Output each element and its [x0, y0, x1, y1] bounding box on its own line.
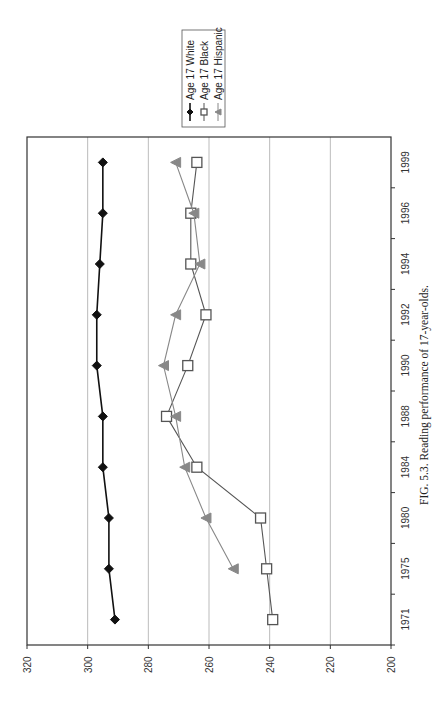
square-marker: [192, 157, 202, 167]
triangle-marker: [201, 513, 211, 523]
gridlines: [88, 137, 331, 645]
value-tick-label: 280: [143, 656, 154, 673]
triangle-marker: [171, 310, 181, 320]
year-tick-label: 1975: [400, 557, 411, 580]
year-tick-label: 1990: [400, 354, 411, 377]
diamond-marker: [92, 361, 101, 370]
legend-label: Age 17 Hispanic: [213, 27, 224, 100]
series-lines: [92, 157, 277, 624]
legend-label: Age 17 White: [185, 40, 196, 100]
triangle-marker: [228, 564, 238, 574]
diamond-marker: [92, 310, 101, 319]
value-tick-label: 260: [204, 656, 215, 673]
year-tick-label: 1996: [400, 202, 411, 225]
figure-caption: FIG. 5.3. Reading performance of 17-year…: [418, 285, 431, 505]
value-axis: 200220240260280300320: [22, 645, 397, 673]
year-tick-label: 1984: [400, 456, 411, 479]
triangle-marker: [159, 361, 169, 371]
value-tick-label: 200: [386, 656, 397, 673]
reading-performance-chart: 200220240260280300320 197119751980198419…: [0, 0, 438, 704]
diamond-marker: [110, 615, 119, 624]
triangle-marker: [171, 157, 181, 167]
triangle-marker: [180, 462, 190, 472]
diamond-marker: [104, 514, 113, 523]
year-tick-label: 1971: [400, 608, 411, 631]
diamond-marker: [98, 158, 107, 167]
value-tick-label: 320: [22, 656, 33, 673]
year-tick-label: 1999: [400, 151, 411, 174]
square-marker: [201, 310, 211, 320]
diamond-marker: [98, 463, 107, 472]
series-age-17-black: [162, 157, 278, 624]
diamond-marker: [104, 564, 113, 573]
square-marker: [192, 462, 202, 472]
value-tick-label: 220: [325, 656, 336, 673]
year-axis: 1971197519801984198819901992199419961999: [391, 151, 411, 645]
square-marker: [262, 564, 272, 574]
diamond-marker: [95, 260, 104, 269]
series-age-17-hispanic: [159, 157, 239, 573]
year-tick-label: 1980: [400, 506, 411, 529]
value-tick-label: 240: [265, 656, 276, 673]
year-tick-label: 1988: [400, 405, 411, 428]
square-marker: [183, 361, 193, 371]
series-age-17-white: [92, 158, 119, 624]
year-tick-label: 1994: [400, 252, 411, 275]
value-tick-label: 300: [83, 656, 94, 673]
legend-label: Age 17 Black: [199, 40, 210, 100]
diamond-marker: [98, 209, 107, 218]
legend: Age 17 WhiteAge 17 BlackAge 17 Hispanic: [182, 27, 225, 127]
square-marker: [201, 109, 207, 115]
square-marker: [268, 615, 278, 625]
year-tick-label: 1992: [400, 303, 411, 326]
square-marker: [256, 513, 266, 523]
diamond-marker: [98, 412, 107, 421]
